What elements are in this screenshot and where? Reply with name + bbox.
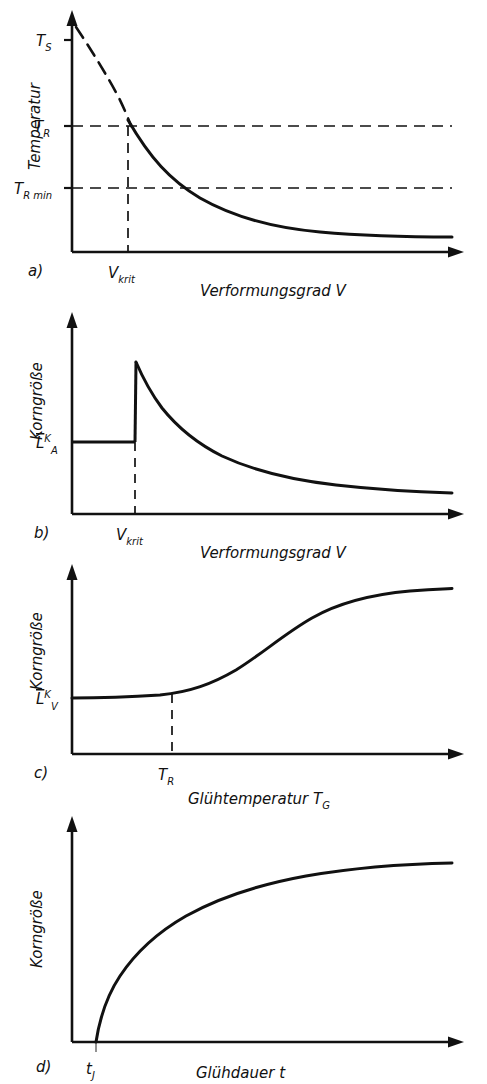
panel-a-xlabel: Verformungsgrad V — [200, 282, 348, 300]
panel-b-axes — [67, 312, 465, 520]
panel-d-letter: d) — [36, 1058, 51, 1076]
panel-b-xtick-Vkrit: Vkrit — [116, 526, 144, 547]
panel-d: Korngröße tJ d) Glühdauer t — [0, 802, 487, 1084]
panel-a: TS TR TR min Temperatur Vkrit a) Verform… — [0, 0, 487, 300]
panel-a-curve — [76, 27, 452, 237]
panel-a-ytick-TRmin: TR min — [14, 180, 52, 201]
panel-c-ylabel: Korngröße — [28, 612, 46, 690]
panel-b-ylabel: Korngröße — [28, 362, 46, 440]
panel-b-svg: LKA Korngröße Vkrit b) Verformungsgrad V — [0, 300, 487, 562]
panel-c-xtick-TR: TR — [158, 766, 174, 787]
panel-b-letter: b) — [34, 524, 49, 542]
panel-d-labels: Korngröße tJ d) Glühdauer t — [28, 890, 286, 1082]
panel-b: LKA Korngröße Vkrit b) Verformungsgrad V — [0, 300, 487, 562]
panel-c-axes — [67, 564, 465, 760]
panel-d-xlabel: Glühdauer t — [196, 1064, 286, 1082]
panel-b-labels: LKA Korngröße Vkrit b) Verformungsgrad V — [28, 362, 348, 562]
panel-c-svg: LKV Korngröße TR c) Glühtemperatur TG — [0, 548, 487, 816]
panel-a-reference-lines — [72, 126, 452, 252]
panel-d-xtick-tJ: tJ — [86, 1060, 95, 1081]
panel-d-ylabel: Korngröße — [28, 890, 46, 968]
panel-c-ytick-LVK: LKV — [36, 689, 59, 712]
figure-root: TS TR TR min Temperatur Vkrit a) Verform… — [0, 0, 487, 1084]
panel-a-ytick-TS: TS — [36, 32, 52, 53]
panel-d-svg: Korngröße tJ d) Glühdauer t — [0, 802, 487, 1084]
panel-a-ylabel: Temperatur — [26, 82, 44, 170]
panel-c: LKV Korngröße TR c) Glühtemperatur TG — [0, 548, 487, 816]
panel-c-labels: LKV Korngröße TR c) Glühtemperatur TG — [28, 612, 330, 811]
panel-d-curve — [96, 863, 452, 1042]
panel-c-letter: c) — [34, 764, 48, 782]
panel-b-curve — [72, 362, 452, 493]
panel-d-axes — [67, 816, 465, 1048]
panel-a-labels: TS TR TR min Temperatur Vkrit a) Verform… — [14, 32, 348, 300]
panel-a-xtick-Vkrit: Vkrit — [108, 264, 136, 285]
panel-c-curve — [72, 589, 452, 699]
panel-a-svg: TS TR TR min Temperatur Vkrit a) Verform… — [0, 0, 487, 300]
panel-a-letter: a) — [28, 262, 43, 280]
panel-a-axes — [67, 10, 465, 258]
